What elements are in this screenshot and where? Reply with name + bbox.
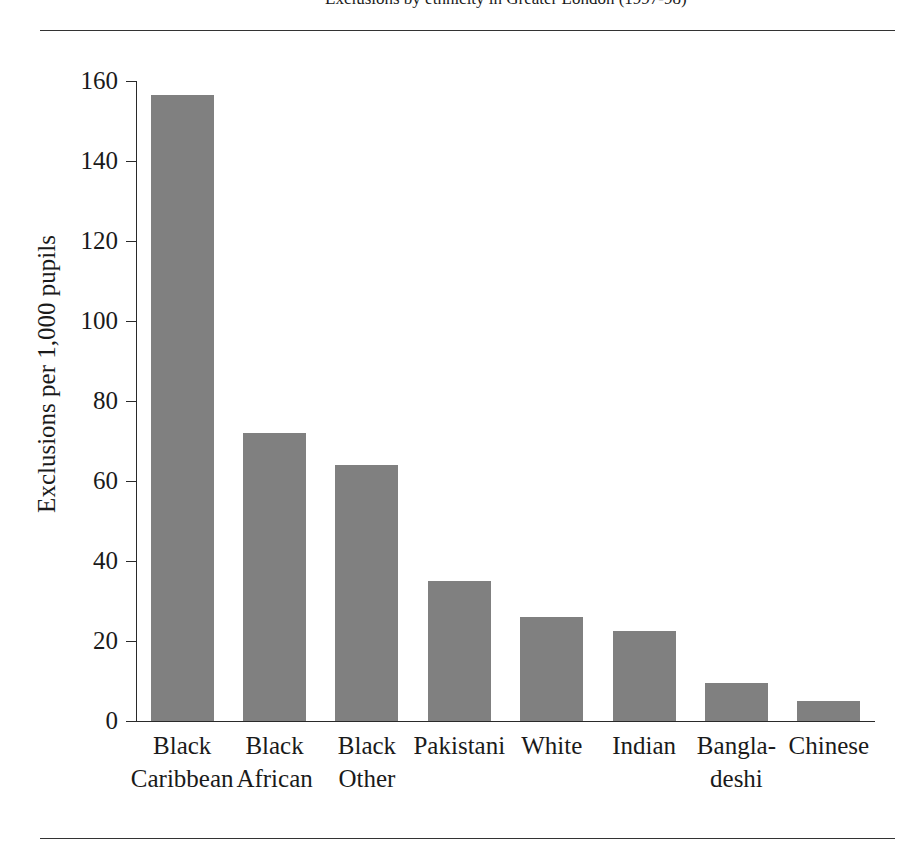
y-tick-0 — [126, 721, 136, 722]
bar — [151, 95, 214, 721]
y-tick-140 — [126, 161, 136, 162]
y-tick-160 — [126, 81, 136, 82]
x-axis-label: Indian — [592, 730, 696, 763]
y-tick-label-80: 80 — [8, 388, 118, 413]
y-tick-40 — [126, 561, 136, 562]
x-axis-label: Chinese — [777, 730, 881, 763]
bar — [243, 433, 306, 721]
y-tick-120 — [126, 241, 136, 242]
y-tick-label-60: 60 — [8, 468, 118, 493]
bar — [705, 683, 768, 721]
y-tick-label-140: 140 — [8, 148, 118, 173]
x-axis-line — [136, 721, 875, 722]
page-caption-text: Exclusions by ethnicity in Greater Londo… — [325, 0, 687, 9]
bar — [335, 465, 398, 721]
bar — [797, 701, 860, 721]
y-axis-title: Exclusions per 1,000 pupils — [33, 159, 61, 589]
y-tick-label-40: 40 — [8, 548, 118, 573]
y-tick-label-0: 0 — [8, 708, 118, 733]
y-tick-100 — [126, 321, 136, 322]
x-axis-label: Black African — [222, 730, 326, 795]
x-axis-label: Pakistani — [407, 730, 511, 763]
y-axis-line — [136, 81, 137, 721]
bar-chart: Exclusions per 1,000 pupils 020406080100… — [0, 30, 915, 838]
bar — [613, 631, 676, 721]
page-caption: Exclusions by ethnicity in Greater Londo… — [0, 0, 915, 14]
bar — [520, 617, 583, 721]
y-tick-label-160: 160 — [8, 68, 118, 93]
y-tick-20 — [126, 641, 136, 642]
x-axis-label: White — [500, 730, 604, 763]
x-axis-label: Black Other — [315, 730, 419, 795]
y-tick-label-100: 100 — [8, 308, 118, 333]
horizontal-rule-bottom — [40, 838, 895, 839]
bar — [428, 581, 491, 721]
y-tick-60 — [126, 481, 136, 482]
x-axis-label: Bangla- deshi — [684, 730, 788, 795]
y-tick-80 — [126, 401, 136, 402]
y-tick-label-120: 120 — [8, 228, 118, 253]
y-tick-label-20: 20 — [8, 628, 118, 653]
x-axis-label: Black Caribbean — [130, 730, 234, 795]
